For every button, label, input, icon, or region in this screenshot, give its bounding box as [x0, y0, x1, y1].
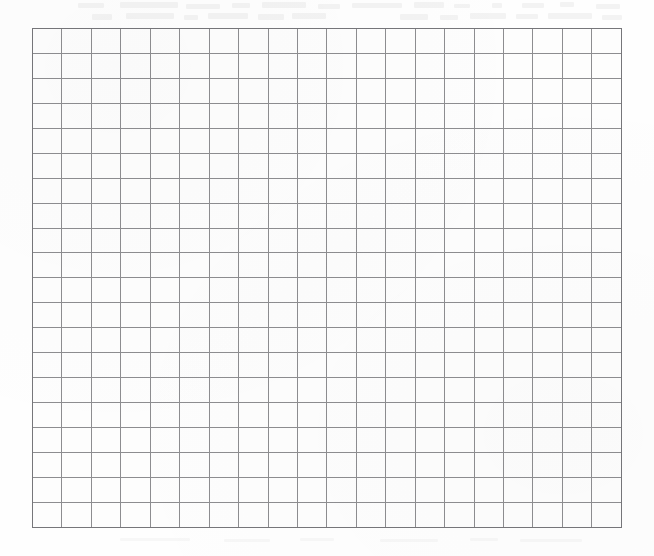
grid-cell[interactable] [121, 278, 150, 303]
grid-cell[interactable] [121, 178, 150, 203]
grid-cell[interactable] [504, 128, 533, 153]
grid-cell[interactable] [239, 353, 268, 378]
grid-cell[interactable] [62, 178, 91, 203]
grid-cell[interactable] [209, 278, 238, 303]
grid-cell[interactable] [180, 428, 209, 453]
grid-cell[interactable] [239, 303, 268, 328]
grid-cell[interactable] [33, 29, 62, 54]
grid-cell[interactable] [91, 78, 120, 103]
grid-cell[interactable] [415, 29, 444, 54]
grid-cell[interactable] [592, 178, 622, 203]
grid-cell[interactable] [474, 403, 503, 428]
grid-cell[interactable] [415, 78, 444, 103]
grid-cell[interactable] [239, 103, 268, 128]
grid-cell[interactable] [356, 353, 385, 378]
grid-cell[interactable] [504, 153, 533, 178]
grid-cell[interactable] [533, 153, 562, 178]
grid-cell[interactable] [474, 128, 503, 153]
grid-cell[interactable] [327, 403, 356, 428]
grid-cell[interactable] [562, 178, 591, 203]
grid-cell[interactable] [533, 303, 562, 328]
grid-cell[interactable] [504, 328, 533, 353]
grid-cell[interactable] [268, 403, 297, 428]
grid-cell[interactable] [474, 328, 503, 353]
grid-cell[interactable] [386, 403, 415, 428]
grid-cell[interactable] [356, 29, 385, 54]
grid-cell[interactable] [268, 178, 297, 203]
grid-cell[interactable] [121, 53, 150, 78]
grid-cell[interactable] [356, 253, 385, 278]
grid-cell[interactable] [592, 502, 622, 527]
grid-cell[interactable] [91, 278, 120, 303]
grid-cell[interactable] [474, 228, 503, 253]
grid-cell[interactable] [592, 128, 622, 153]
grid-cell[interactable] [445, 378, 474, 403]
grid-cell[interactable] [327, 153, 356, 178]
grid-cell[interactable] [327, 303, 356, 328]
grid-cell[interactable] [91, 452, 120, 477]
grid-cell[interactable] [180, 78, 209, 103]
grid-cell[interactable] [356, 128, 385, 153]
grid-cell[interactable] [386, 178, 415, 203]
grid-cell[interactable] [268, 53, 297, 78]
grid-cell[interactable] [445, 253, 474, 278]
grid-cell[interactable] [33, 228, 62, 253]
grid-cell[interactable] [209, 203, 238, 228]
grid-cell[interactable] [91, 328, 120, 353]
grid-cell[interactable] [209, 328, 238, 353]
grid-cell[interactable] [445, 153, 474, 178]
grid-cell[interactable] [62, 203, 91, 228]
grid-cell[interactable] [533, 78, 562, 103]
grid-cell[interactable] [33, 403, 62, 428]
grid-cell[interactable] [533, 452, 562, 477]
grid-cell[interactable] [150, 328, 179, 353]
grid-cell[interactable] [91, 477, 120, 502]
grid-cell[interactable] [150, 128, 179, 153]
grid-cell[interactable] [62, 53, 91, 78]
grid-cell[interactable] [209, 29, 238, 54]
grid-cell[interactable] [91, 128, 120, 153]
grid-cell[interactable] [180, 328, 209, 353]
grid-cell[interactable] [239, 53, 268, 78]
grid-cell[interactable] [209, 178, 238, 203]
grid-cell[interactable] [445, 103, 474, 128]
grid-cell[interactable] [209, 428, 238, 453]
grid-cell[interactable] [239, 477, 268, 502]
grid-cell[interactable] [445, 403, 474, 428]
grid-cell[interactable] [91, 178, 120, 203]
grid-cell[interactable] [504, 178, 533, 203]
grid-cell[interactable] [268, 203, 297, 228]
grid-cell[interactable] [356, 303, 385, 328]
grid-cell[interactable] [504, 203, 533, 228]
grid-cell[interactable] [121, 153, 150, 178]
grid-cell[interactable] [415, 228, 444, 253]
grid-cell[interactable] [504, 378, 533, 403]
grid-cell[interactable] [297, 502, 326, 527]
grid-cell[interactable] [386, 328, 415, 353]
grid-cell[interactable] [327, 378, 356, 403]
grid-cell[interactable] [445, 328, 474, 353]
grid-cell[interactable] [91, 228, 120, 253]
grid-cell[interactable] [62, 253, 91, 278]
grid-cell[interactable] [445, 78, 474, 103]
grid-cell[interactable] [445, 428, 474, 453]
grid-cell[interactable] [415, 203, 444, 228]
grid-cell[interactable] [562, 153, 591, 178]
grid-cell[interactable] [592, 253, 622, 278]
grid-cell[interactable] [415, 378, 444, 403]
grid-cell[interactable] [209, 153, 238, 178]
grid-cell[interactable] [445, 128, 474, 153]
grid-cell[interactable] [209, 452, 238, 477]
grid-cell[interactable] [356, 502, 385, 527]
grid-cell[interactable] [327, 428, 356, 453]
grid-cell[interactable] [327, 78, 356, 103]
grid-cell[interactable] [562, 452, 591, 477]
grid-cell[interactable] [297, 203, 326, 228]
grid-cell[interactable] [91, 253, 120, 278]
grid-cell[interactable] [239, 378, 268, 403]
grid-cell[interactable] [62, 128, 91, 153]
grid-cell[interactable] [33, 153, 62, 178]
grid-cell[interactable] [121, 303, 150, 328]
grid-cell[interactable] [150, 278, 179, 303]
grid-cell[interactable] [150, 502, 179, 527]
